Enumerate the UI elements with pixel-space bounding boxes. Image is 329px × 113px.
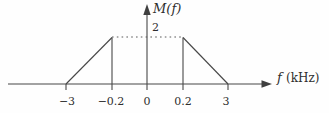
spectrum-plot-canvas: M(f) 2 f (kHz) −3 −0.2 0 0.2 3 bbox=[0, 0, 329, 113]
peak-value-label: 2 bbox=[152, 21, 159, 34]
spectrum-figure: M(f) 2 f (kHz) −3 −0.2 0 0.2 3 bbox=[0, 0, 329, 113]
x-axis-arrowhead-icon bbox=[262, 80, 273, 87]
y-axis-arrowhead-icon bbox=[143, 4, 150, 15]
x-axis-symbol-label: f bbox=[276, 70, 284, 85]
tick-label-neg-3: −3 bbox=[59, 95, 75, 108]
tick-label-neg-0-2: −0.2 bbox=[98, 95, 125, 108]
y-axis-label: M(f) bbox=[152, 1, 181, 16]
tick-label-3: 3 bbox=[223, 95, 230, 108]
x-axis-unit-label: (kHz) bbox=[286, 71, 319, 85]
tick-label-0: 0 bbox=[144, 95, 151, 108]
spectrum-right-slope-line bbox=[183, 38, 228, 85]
tick-label-0-2: 0.2 bbox=[174, 95, 192, 108]
spectrum-left-slope-line bbox=[66, 38, 112, 85]
